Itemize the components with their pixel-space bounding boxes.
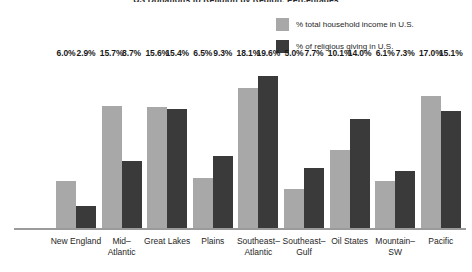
chart-plot-area: 6.0%2.9%15.7%8.7%15.6%15.4%6.5%9.3%18.1%… — [0, 60, 472, 228]
legend-item-household-income: % total household income in U.S. — [276, 15, 414, 33]
bar-group-bars: 6.0%2.9% — [56, 60, 96, 228]
bar-value-label: 8.7% — [122, 48, 141, 58]
bar[interactable]: 2.9% — [76, 206, 96, 228]
bar-group: 15.7%8.7% — [102, 60, 142, 228]
bar-group-bars: 18.1%19.6% — [238, 60, 278, 228]
legend-swatch-household-income — [276, 18, 289, 31]
bar-group-bars: 10.1%14.0% — [330, 60, 370, 228]
bar-column: 14.0% — [350, 60, 370, 228]
bar-value-label: 6.5% — [193, 48, 212, 58]
bar-column: 7.7% — [304, 60, 324, 228]
bar-column: 18.1% — [238, 60, 258, 228]
bar-value-label: 7.3% — [396, 48, 415, 58]
bar-value-label: 7.7% — [305, 48, 324, 58]
bar-group: 6.1%7.3% — [375, 60, 415, 228]
bar-column: 6.0% — [56, 60, 76, 228]
bar-group-bars: 6.1%7.3% — [375, 60, 415, 228]
bar[interactable]: 18.1% — [238, 88, 258, 228]
bar[interactable]: 7.3% — [395, 171, 415, 228]
bar-column: 7.3% — [395, 60, 415, 228]
bar-column: 15.6% — [147, 60, 167, 228]
bar-group: 17.0%15.1% — [421, 60, 461, 228]
bar[interactable]: 15.7% — [102, 106, 122, 228]
bar[interactable]: 19.6% — [258, 76, 278, 228]
bar[interactable]: 14.0% — [350, 119, 370, 228]
bar[interactable]: 8.7% — [122, 161, 142, 228]
legend-label-household-income: % total household income in U.S. — [296, 20, 414, 29]
x-axis-line — [14, 228, 466, 230]
bar-column: 6.5% — [193, 60, 213, 228]
bar[interactable]: 6.5% — [193, 178, 213, 228]
bar-group: 15.6%15.4% — [147, 60, 187, 228]
bar[interactable]: 9.3% — [213, 156, 233, 228]
bar-column: 15.1% — [441, 60, 461, 228]
bar-column: 10.1% — [330, 60, 350, 228]
x-axis-category-labels: New EnglandMid–AtlanticGreat LakesPlains… — [0, 236, 472, 272]
bar-group-bars: 15.7%8.7% — [102, 60, 142, 228]
bar-column: 6.1% — [375, 60, 395, 228]
bar[interactable]: 6.1% — [375, 181, 395, 228]
bar-column: 2.9% — [76, 60, 96, 228]
bar-column: 5.0% — [284, 60, 304, 228]
bar-column: 17.0% — [421, 60, 441, 228]
bar-value-label: 15.1% — [439, 48, 463, 58]
bar-value-label: 15.7% — [100, 48, 124, 58]
bar-value-label: 19.6% — [257, 48, 281, 58]
bar[interactable]: 6.0% — [56, 181, 76, 228]
bar-value-label: 6.1% — [376, 48, 395, 58]
bar-group-bars: 5.0%7.7% — [284, 60, 324, 228]
bar-value-label: 6.0% — [57, 48, 76, 58]
bar-group: 5.0%7.7% — [284, 60, 324, 228]
bar-group: 10.1%14.0% — [330, 60, 370, 228]
bar-value-label: 5.0% — [285, 48, 304, 58]
bar-column: 15.4% — [167, 60, 187, 228]
bar-group-bars: 6.5%9.3% — [193, 60, 233, 228]
bar[interactable]: 5.0% — [284, 189, 304, 228]
bar[interactable]: 17.0% — [421, 96, 441, 228]
bar-column: 8.7% — [122, 60, 142, 228]
bar-value-label: 14.0% — [348, 48, 372, 58]
bar-column: 9.3% — [213, 60, 233, 228]
bar[interactable]: 15.6% — [147, 107, 167, 228]
bar-group: 6.0%2.9% — [56, 60, 96, 228]
category-label: Pacific — [401, 236, 472, 247]
bar-value-label: 9.3% — [213, 48, 232, 58]
bar-value-label: 15.4% — [165, 48, 189, 58]
bar[interactable]: 10.1% — [330, 150, 350, 228]
bar-group-bars: 15.6%15.4% — [147, 60, 187, 228]
bar-value-label: 2.9% — [77, 48, 96, 58]
bar-group: 18.1%19.6% — [238, 60, 278, 228]
bar[interactable]: 15.1% — [441, 111, 461, 228]
bar-column: 19.6% — [258, 60, 278, 228]
bar[interactable]: 7.7% — [304, 168, 324, 228]
bar[interactable]: 15.4% — [167, 109, 187, 228]
bar-group: 6.5%9.3% — [193, 60, 233, 228]
bar-group-bars: 17.0%15.1% — [421, 60, 461, 228]
bar-column: 15.7% — [102, 60, 122, 228]
chart-title: US Donations to Religion by Region, Perc… — [0, 0, 472, 2]
